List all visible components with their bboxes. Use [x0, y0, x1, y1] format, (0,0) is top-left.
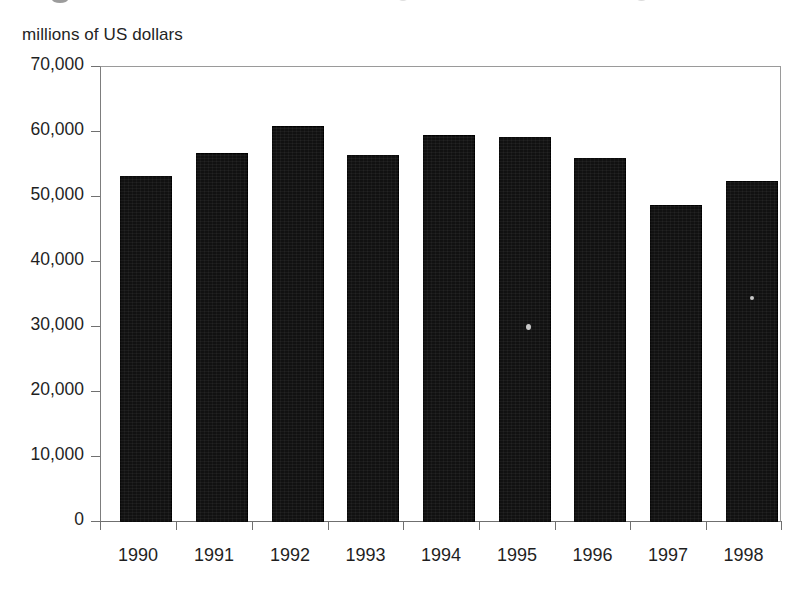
x-axis-label-1993: 1993: [328, 545, 403, 566]
x-axis-label-1996: 1996: [555, 545, 630, 566]
bar-1995[interactable]: [499, 137, 551, 522]
x-tick-mark: [706, 521, 707, 530]
x-axis-label-1997: 1997: [630, 545, 706, 566]
bar-1997[interactable]: [650, 205, 702, 522]
bar-1994[interactable]: [423, 135, 475, 522]
y-tick-mark: [91, 456, 100, 457]
x-axis-label-1995: 1995: [479, 545, 555, 566]
y-axis-unit-label: millions of US dollars: [22, 25, 183, 45]
x-tick-mark: [479, 521, 480, 530]
bar-1996[interactable]: [574, 158, 626, 522]
scan-speckle: [750, 296, 754, 300]
y-tick-label: 60,000: [30, 119, 84, 140]
y-tick-label: 50,000: [30, 184, 84, 205]
y-tick-mark: [91, 196, 100, 197]
x-axis-label-1990: 1990: [100, 545, 176, 566]
x-tick-mark: [630, 521, 631, 530]
scan-speckle: [398, 0, 408, 1]
y-tick-label: 30,000: [30, 314, 84, 335]
bars-layer: [100, 66, 781, 522]
page-scan-artifact: [0, 0, 809, 8]
x-axis-label-1992: 1992: [252, 545, 328, 566]
y-tick-mark: [91, 391, 100, 392]
scan-speckle: [526, 324, 531, 330]
bar-1991[interactable]: [196, 153, 248, 522]
x-tick-mark: [555, 521, 556, 530]
x-axis-label-1991: 1991: [176, 545, 252, 566]
x-tick-mark: [176, 521, 177, 530]
bar-1992[interactable]: [272, 126, 324, 522]
y-tick-label: 70,000: [30, 54, 84, 75]
y-tick-mark: [91, 521, 100, 522]
bar-1993[interactable]: [347, 155, 399, 522]
scan-speckle: [52, 0, 68, 3]
y-tick-mark: [91, 131, 100, 132]
x-tick-mark: [403, 521, 404, 530]
scan-speckle: [636, 0, 647, 1]
y-tick-label: 10,000: [30, 444, 84, 465]
x-tick-mark: [252, 521, 253, 530]
y-tick-label: 0: [74, 509, 84, 530]
y-tick-label: 20,000: [30, 379, 84, 400]
x-axis-label-1998: 1998: [706, 545, 781, 566]
bar-1990[interactable]: [120, 176, 172, 522]
x-tick-mark: [328, 521, 329, 530]
bar-1998[interactable]: [726, 181, 778, 522]
y-tick-mark: [91, 261, 100, 262]
x-tick-mark: [100, 521, 101, 530]
y-tick-label: 40,000: [30, 249, 84, 270]
x-axis-label-1994: 1994: [403, 545, 479, 566]
y-tick-mark: [91, 326, 100, 327]
y-tick-mark: [91, 66, 100, 67]
x-tick-mark: [781, 521, 782, 530]
bar-chart-figure: millions of US dollars 70,000 60,000 50,…: [0, 0, 809, 592]
